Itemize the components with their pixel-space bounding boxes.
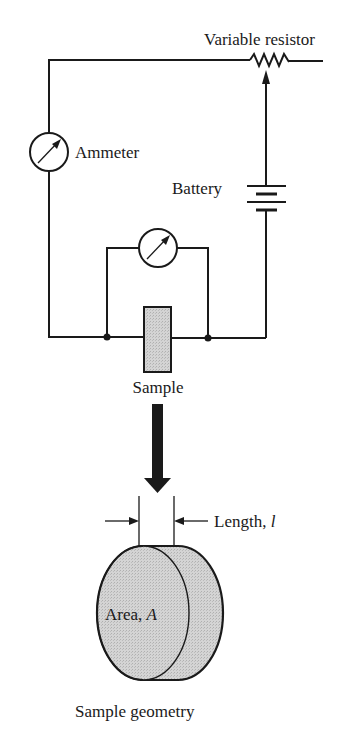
junction-dot-left [104, 334, 111, 341]
top-wire [49, 54, 323, 152]
sample-geometry-caption: Sample geometry [75, 702, 195, 721]
battery-icon [247, 186, 286, 338]
length-label: Length, l [214, 512, 276, 531]
ammeter-icon [30, 133, 68, 171]
area-label: Area, A [105, 605, 158, 624]
length-dimension [105, 496, 208, 546]
voltmeter-icon [139, 229, 177, 267]
junction-dot-right [205, 335, 212, 342]
sample-block [144, 307, 171, 372]
resistor-wiper [262, 70, 270, 186]
battery-label: Battery [172, 179, 223, 198]
wiper-arrow-icon [262, 70, 270, 84]
ammeter-label: Ammeter [75, 143, 140, 162]
down-arrow-icon [144, 404, 171, 493]
left-wire [49, 171, 144, 337]
sample-label: Sample [133, 378, 184, 397]
circuit-diagram: Variable resistor Ammeter Battery Sample [0, 0, 355, 735]
variable-resistor-label: Variable resistor [204, 30, 315, 49]
resistor-zigzag-icon [250, 54, 289, 66]
